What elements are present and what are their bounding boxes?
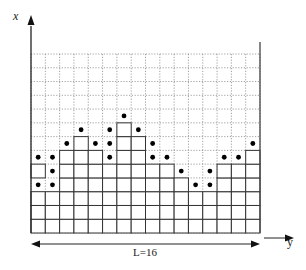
occupied-block xyxy=(131,150,145,164)
occupied-block xyxy=(203,192,217,206)
occupied-block xyxy=(146,164,160,178)
occupied-block xyxy=(74,150,88,164)
occupied-block xyxy=(60,150,74,164)
growth-site-dot xyxy=(50,182,55,187)
growth-site-dot xyxy=(50,169,55,174)
occupied-block xyxy=(74,192,88,206)
system-length-label: L=16 xyxy=(133,246,157,258)
growth-site-dot xyxy=(64,141,69,146)
occupied-block xyxy=(103,219,117,233)
growth-site-dot xyxy=(179,169,184,174)
occupied-block xyxy=(74,205,88,219)
growth-site-dot xyxy=(208,169,213,174)
occupied-block xyxy=(217,219,231,233)
occupied-block xyxy=(246,164,260,178)
occupied-block xyxy=(103,164,117,178)
occupied-block xyxy=(146,178,160,192)
occupied-block xyxy=(74,164,88,178)
growth-site-dot xyxy=(107,141,112,146)
occupied-block xyxy=(103,192,117,206)
occupied-block xyxy=(103,178,117,192)
occupied-block xyxy=(117,178,131,192)
occupied-block xyxy=(60,164,74,178)
occupied-block xyxy=(103,205,117,219)
occupied-block xyxy=(160,164,174,178)
growth-site-dot xyxy=(93,141,98,146)
occupied-block xyxy=(117,150,131,164)
occupied-block xyxy=(188,192,202,206)
occupied-block xyxy=(174,192,188,206)
occupied-block xyxy=(117,205,131,219)
x-axis-label: x xyxy=(13,9,18,24)
growth-site-dot xyxy=(107,127,112,132)
growth-site-dot xyxy=(150,141,155,146)
occupied-block xyxy=(131,178,145,192)
occupied-block xyxy=(174,219,188,233)
x-axis-arrow-icon xyxy=(28,15,35,25)
occupied-block xyxy=(231,192,245,206)
occupied-block xyxy=(31,219,45,233)
occupied-block xyxy=(88,219,102,233)
occupied-block xyxy=(203,219,217,233)
overhang-block xyxy=(31,164,45,178)
growth-site-dot xyxy=(36,182,41,187)
occupied-block xyxy=(88,178,102,192)
occupied-block xyxy=(160,219,174,233)
occupied-block xyxy=(217,178,231,192)
growth-site-dot xyxy=(122,114,127,119)
occupied-block xyxy=(45,192,59,206)
occupied-block xyxy=(131,192,145,206)
occupied-block xyxy=(117,219,131,233)
occupied-block xyxy=(117,123,131,137)
occupied-block xyxy=(160,178,174,192)
length-arrow-right-icon xyxy=(251,241,260,248)
occupied-block xyxy=(88,164,102,178)
occupied-block xyxy=(146,205,160,219)
occupied-block xyxy=(231,219,245,233)
y-axis-label: y xyxy=(287,235,293,250)
occupied-block xyxy=(60,192,74,206)
occupied-block xyxy=(45,205,59,219)
growth-site-dot xyxy=(165,155,170,160)
growth-site-dot xyxy=(208,182,213,187)
occupied-block xyxy=(131,219,145,233)
growth-site-dot xyxy=(250,141,255,146)
occupied-block xyxy=(131,164,145,178)
occupied-block xyxy=(246,192,260,206)
occupied-block xyxy=(131,205,145,219)
growth-site-dot xyxy=(136,127,141,132)
occupied-block xyxy=(45,219,59,233)
deposition-lattice-diagram xyxy=(0,0,306,270)
occupied-blocks xyxy=(31,123,260,233)
occupied-block xyxy=(31,205,45,219)
occupied-block xyxy=(60,205,74,219)
occupied-block xyxy=(31,192,45,206)
occupied-block xyxy=(231,164,245,178)
occupied-block xyxy=(246,150,260,164)
growth-site-dot xyxy=(36,155,41,160)
occupied-block xyxy=(60,219,74,233)
occupied-block xyxy=(131,137,145,151)
occupied-block xyxy=(246,219,260,233)
occupied-block xyxy=(88,150,102,164)
occupied-block xyxy=(231,178,245,192)
occupied-block xyxy=(246,178,260,192)
growth-site-dot xyxy=(236,155,241,160)
occupied-block xyxy=(88,192,102,206)
occupied-block xyxy=(174,178,188,192)
occupied-block xyxy=(217,164,231,178)
occupied-block xyxy=(117,137,131,151)
occupied-block xyxy=(74,137,88,151)
occupied-block xyxy=(188,205,202,219)
growth-site-dot xyxy=(222,155,227,160)
occupied-block xyxy=(117,192,131,206)
occupied-block xyxy=(203,205,217,219)
growth-site-dot xyxy=(107,155,112,160)
growth-site-dot xyxy=(50,155,55,160)
occupied-block xyxy=(174,205,188,219)
occupied-block xyxy=(146,192,160,206)
occupied-block xyxy=(231,205,245,219)
occupied-block xyxy=(217,192,231,206)
length-arrow-left-icon xyxy=(31,241,40,248)
growth-site-dot xyxy=(193,182,198,187)
